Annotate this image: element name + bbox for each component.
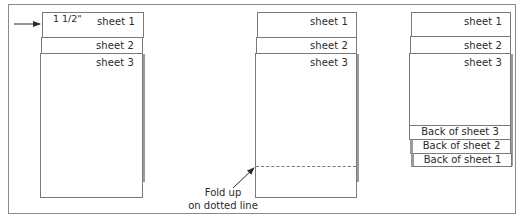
arrows-layer: [0, 0, 522, 219]
fold-arrow-icon: [233, 168, 254, 188]
